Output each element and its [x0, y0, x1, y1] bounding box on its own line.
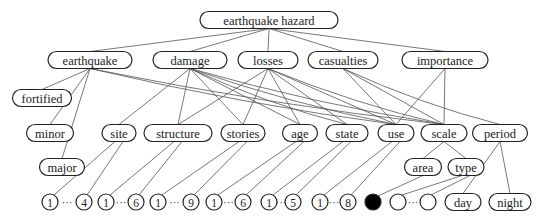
edge-stories-leaf — [194, 142, 247, 196]
node-earthquake-label: earthquake — [63, 54, 118, 68]
node-earthquake: earthquake — [48, 52, 132, 69]
node-use-label: use — [388, 127, 405, 141]
node-damage-label: damage — [171, 54, 210, 68]
edge-period-night — [500, 142, 510, 194]
node-losses: losses — [238, 52, 298, 69]
edge-losses-stories — [243, 69, 268, 125]
node-day: day — [445, 194, 481, 211]
leaf-range-age: 16··· — [206, 194, 251, 210]
leaf-label: 6 — [240, 197, 246, 209]
node-age-label: age — [291, 127, 309, 141]
leaf-label: 6 — [133, 197, 139, 209]
leaf-label: 9 — [188, 197, 194, 209]
leaf-circle — [420, 194, 436, 210]
edge-earthquake-scale — [90, 69, 444, 125]
leaf-circle — [390, 194, 406, 210]
node-day-label: day — [454, 196, 473, 210]
node-importance: importance — [402, 52, 488, 69]
node-scale-label: scale — [432, 127, 457, 141]
node-night: night — [489, 194, 531, 211]
edge-losses-use — [268, 69, 396, 125]
leaf-label: 1 — [317, 197, 323, 209]
node-structure-label: structure — [156, 127, 200, 141]
edge-root-damage — [190, 29, 269, 52]
node-losses-label: losses — [253, 54, 283, 68]
leaf-label: 1 — [47, 197, 53, 209]
node-fortified: fortified — [13, 90, 72, 107]
edge-age-leaf — [246, 142, 304, 196]
node-damage: damage — [153, 52, 227, 69]
edge-casualties-use — [343, 69, 396, 125]
edge-importance-use — [396, 69, 445, 125]
edge-state-leaf — [273, 142, 343, 196]
earthquake-hazard-diagram: earthquake hazardearthquakedamagelossesc… — [0, 0, 538, 223]
node-state-label: state — [336, 127, 359, 141]
edge-site-leaf — [87, 142, 123, 196]
node-major-label: major — [47, 161, 77, 175]
leaf-label: 1 — [266, 197, 272, 209]
leaf-label: 1 — [155, 197, 161, 209]
node-state: state — [326, 125, 368, 142]
node-area: area — [405, 159, 442, 176]
filled-leaf-circle — [365, 194, 381, 210]
edge-state-leaf — [296, 142, 351, 196]
node-type-label: type — [455, 161, 477, 175]
node-stories: stories — [221, 125, 265, 142]
edge-stories-leaf — [162, 142, 239, 196]
edge-type-leaf — [402, 176, 462, 196]
ellipsis: ··· — [408, 196, 419, 208]
edge-structure-leaf — [110, 142, 174, 196]
leaf-range-site: 14··· — [42, 194, 92, 210]
ellipsis: ··· — [223, 196, 234, 208]
edge-area-filled-leaf — [378, 176, 423, 197]
node-stories-label: stories — [227, 127, 260, 141]
node-casualties-label: casualties — [319, 54, 368, 68]
ellipsis: ··· — [62, 196, 73, 208]
leaf-range-stories: 19··· — [150, 194, 199, 210]
diagram-leaves: 14···16···19···16···15···18······ — [42, 194, 436, 210]
node-period-label: period — [484, 127, 517, 141]
edge-root-losses — [268, 29, 269, 52]
edge-importance-scale — [444, 69, 445, 125]
ellipsis: ··· — [276, 196, 287, 208]
leaf-label: 4 — [81, 197, 87, 209]
edge-scale-type — [444, 142, 466, 159]
edge-root-earthquake — [90, 29, 269, 52]
node-night-label: night — [497, 196, 523, 210]
leaf-label: 1 — [211, 197, 217, 209]
node-area-label: area — [413, 161, 434, 175]
edge-casualties-period — [343, 69, 500, 125]
leaf-range-structure: 16··· — [98, 194, 144, 210]
node-root-label: earthquake hazard — [223, 14, 315, 28]
node-importance-label: importance — [417, 54, 474, 68]
edge-scale-area — [423, 142, 444, 159]
edge-earthquake-major — [62, 69, 90, 159]
leaf-range-state: 15··· — [261, 194, 301, 210]
edge-damage-stories — [190, 69, 243, 125]
edge-age-leaf — [218, 142, 296, 196]
node-major: major — [40, 159, 85, 176]
edge-damage-age — [190, 69, 300, 125]
node-period: period — [473, 125, 528, 142]
node-structure: structure — [144, 125, 212, 142]
node-site-label: site — [110, 127, 128, 141]
node-minor: minor — [27, 125, 74, 142]
node-root: earthquake hazard — [200, 12, 338, 29]
leaf-label: 1 — [103, 197, 109, 209]
leaf-range-use: 18··· — [312, 194, 356, 210]
leaf-label: 8 — [345, 197, 351, 209]
edge-structure-leaf — [139, 142, 182, 196]
edge-root-importance — [269, 29, 445, 52]
leaf-label: 5 — [290, 197, 296, 209]
ellipsis: ··· — [329, 196, 340, 208]
node-site: site — [102, 125, 136, 142]
node-use: use — [378, 125, 414, 142]
ellipsis: ··· — [169, 196, 180, 208]
edge-damage-site — [119, 69, 190, 125]
node-scale: scale — [421, 125, 467, 142]
node-casualties: casualties — [308, 52, 378, 69]
node-fortified-label: fortified — [22, 92, 64, 106]
edge-root-casualties — [269, 29, 343, 52]
node-minor-label: minor — [35, 127, 66, 141]
node-type: type — [448, 159, 484, 176]
